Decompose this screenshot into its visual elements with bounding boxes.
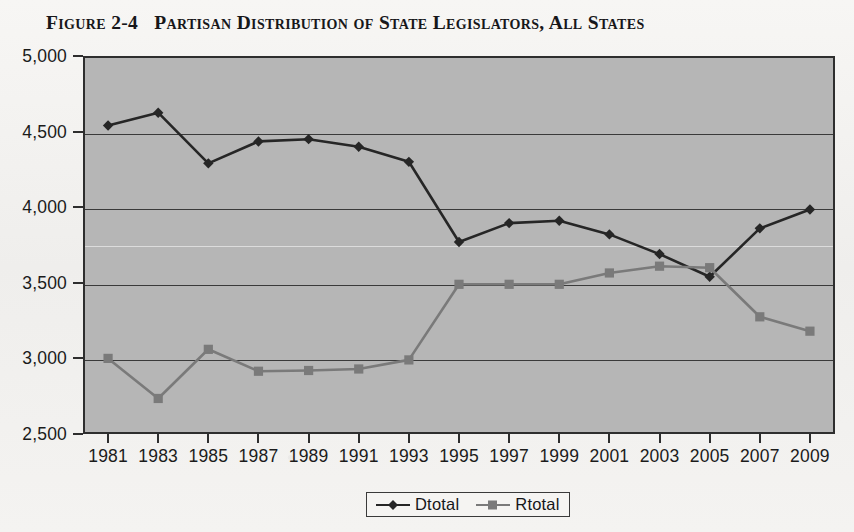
figure-title: Figure 2-4Partisan Distribution of State…	[46, 8, 826, 38]
data-point-dtotal-1991	[354, 142, 364, 152]
data-point-dtotal-2009	[805, 204, 815, 214]
x-tick-label-1997: 1997	[489, 446, 529, 467]
y-axis: 2,5003,0003,5004,0004,5005,000	[0, 0, 83, 440]
series-line-dtotal	[108, 113, 810, 277]
y-tick-mark-4000	[73, 206, 83, 208]
x-tick-mark-2003	[659, 434, 661, 443]
y-tick-label-2500: 2,500	[22, 424, 67, 445]
data-point-dtotal-2003	[654, 249, 664, 259]
x-tick-mark-2009	[809, 434, 811, 443]
series-rtotal	[103, 262, 814, 404]
chart-legend: Dtotal Rtotal	[366, 492, 570, 517]
series-dtotal	[103, 108, 815, 282]
legend-item-rtotal[interactable]: Rtotal	[476, 495, 559, 514]
y-tick-label-4500: 4,500	[22, 121, 67, 142]
legend-label-dtotal: Dtotal	[415, 495, 459, 514]
x-tick-label-1995: 1995	[439, 446, 479, 467]
x-tick-mark-1991	[358, 434, 360, 443]
data-point-rtotal-1989	[304, 366, 313, 375]
data-point-rtotal-1993	[404, 355, 413, 364]
legend-item-dtotal[interactable]: Dtotal	[376, 495, 459, 514]
x-tick-mark-2001	[608, 434, 610, 443]
x-tick-label-2007: 2007	[740, 446, 780, 467]
x-tick-label-2005: 2005	[690, 446, 730, 467]
x-tick-label-2001: 2001	[590, 446, 630, 467]
x-axis: 1981198319851987198919911993199519971999…	[83, 446, 835, 472]
data-point-rtotal-1981	[103, 354, 112, 363]
y-tick-mark-5000	[73, 55, 83, 57]
x-tick-mark-1987	[257, 434, 259, 443]
data-point-dtotal-1981	[103, 120, 113, 130]
x-tick-label-1991: 1991	[339, 446, 379, 467]
data-point-rtotal-1995	[454, 280, 463, 289]
legend-swatch-square-icon	[476, 498, 510, 512]
y-tick-label-3500: 3,500	[22, 272, 67, 293]
x-tick-label-1981: 1981	[88, 446, 128, 467]
data-point-dtotal-1999	[554, 216, 564, 226]
data-point-rtotal-1985	[204, 345, 213, 354]
data-point-rtotal-1987	[254, 367, 263, 376]
data-point-rtotal-2001	[605, 268, 614, 277]
y-tick-mark-3000	[73, 357, 83, 359]
data-point-dtotal-1989	[303, 134, 313, 144]
data-point-dtotal-1987	[253, 136, 263, 146]
x-tick-label-2009: 2009	[790, 446, 830, 467]
data-point-rtotal-2003	[655, 262, 664, 271]
figure-title-text: Partisan Distribution of State Legislato…	[154, 12, 644, 33]
legend-label-rtotal: Rtotal	[515, 495, 559, 514]
x-tick-mark-1985	[207, 434, 209, 443]
x-tick-mark-1989	[308, 434, 310, 443]
x-tick-label-1985: 1985	[188, 446, 228, 467]
x-tick-label-1987: 1987	[239, 446, 279, 467]
x-tick-mark-1995	[458, 434, 460, 443]
data-point-rtotal-1991	[354, 364, 363, 373]
y-tick-mark-3500	[73, 282, 83, 284]
data-point-rtotal-2007	[755, 312, 764, 321]
y-tick-mark-4500	[73, 131, 83, 133]
x-tick-label-1999: 1999	[539, 446, 579, 467]
x-tick-mark-1981	[107, 434, 109, 443]
data-point-dtotal-1997	[504, 218, 514, 228]
x-tick-mark-1983	[157, 434, 159, 443]
x-tick-mark-1993	[408, 434, 410, 443]
y-tick-mark-2500	[73, 433, 83, 435]
data-point-rtotal-2009	[805, 327, 814, 336]
x-tick-mark-2005	[709, 434, 711, 443]
y-tick-label-3000: 3,000	[22, 348, 67, 369]
x-tick-label-2003: 2003	[640, 446, 680, 467]
data-point-dtotal-2001	[604, 229, 614, 239]
x-tick-label-1993: 1993	[389, 446, 429, 467]
series-layer	[83, 56, 835, 434]
data-point-rtotal-1983	[154, 394, 163, 403]
data-point-rtotal-1997	[505, 280, 514, 289]
x-axis-ticks	[83, 434, 835, 444]
y-tick-label-5000: 5,000	[22, 46, 67, 67]
x-tick-mark-1999	[558, 434, 560, 443]
x-tick-label-1983: 1983	[138, 446, 178, 467]
x-tick-mark-1997	[508, 434, 510, 443]
data-point-rtotal-2005	[705, 263, 714, 272]
x-tick-label-1989: 1989	[289, 446, 329, 467]
legend-swatch-diamond-icon	[376, 498, 410, 512]
x-tick-mark-2007	[759, 434, 761, 443]
figure-container: Figure 2-4Partisan Distribution of State…	[0, 0, 854, 532]
data-point-rtotal-1999	[555, 280, 564, 289]
y-tick-label-4000: 4,000	[22, 197, 67, 218]
